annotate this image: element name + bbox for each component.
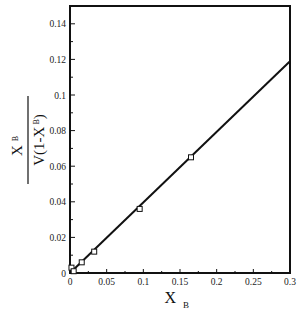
y-tick-label: 0.04	[49, 197, 66, 207]
fit-line-path	[70, 61, 290, 273]
y-axis-ticks: 00.020.040.060.080.10.120.14	[49, 19, 75, 278]
x-tick-label: 0	[68, 277, 73, 287]
x-tick-label: 0.2	[211, 277, 223, 287]
x-axis-title: X B	[164, 289, 189, 310]
y-tick-label: 0.1	[54, 91, 66, 101]
fit-line	[70, 61, 290, 273]
x-tick-label: 0.15	[172, 277, 189, 287]
y-tick-label: 0.12	[49, 55, 66, 65]
y-tick-label: 0.08	[49, 126, 66, 136]
x-axis-ticks: 00.050.10.150.20.250.3	[68, 269, 297, 287]
x-tick-label: 0.3	[284, 277, 296, 287]
y-axis-title-denominator: V(1-XB)	[31, 114, 48, 166]
x-tick-label: 0.1	[137, 277, 149, 287]
data-point-marker	[92, 249, 97, 254]
y-tick-label: 0.06	[49, 162, 66, 172]
y-tick-label: 0.02	[49, 233, 66, 243]
x-tick-label: 0.05	[98, 277, 115, 287]
plot-border	[70, 6, 290, 273]
x-axis-title-sub: B	[183, 300, 189, 310]
y-axis-title: XB V(1-XB)	[9, 96, 48, 184]
x-tick-label: 0.25	[245, 277, 262, 287]
chart: 00.050.10.150.20.250.3 00.020.040.060.08…	[0, 0, 304, 316]
data-point-marker	[137, 206, 142, 211]
y-tick-label: 0.14	[49, 19, 66, 29]
plot-frame	[70, 6, 290, 273]
data-point-marker	[71, 269, 76, 274]
data-point-marker	[189, 155, 194, 160]
x-axis-title-main: X	[164, 289, 176, 306]
y-axis-title-numerator: XB	[9, 136, 25, 156]
y-tick-label: 0	[61, 269, 66, 279]
data-point-marker	[79, 260, 84, 265]
